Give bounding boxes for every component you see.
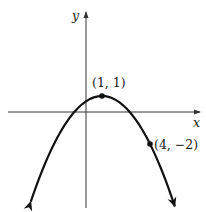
vertex-point <box>99 93 105 99</box>
x-axis-label: x <box>193 115 200 130</box>
point-label: (4, −2) <box>154 137 198 152</box>
y-axis-label: y <box>71 8 80 23</box>
vertex-label: (1, 1) <box>92 75 126 90</box>
point-4-neg2 <box>147 141 153 147</box>
parabola-graph: y x (1, 1) (4, −2) <box>0 0 206 212</box>
